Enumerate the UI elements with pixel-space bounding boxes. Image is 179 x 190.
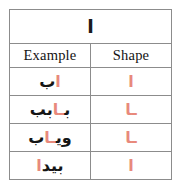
example-suffix: بب xyxy=(30,100,53,119)
example-highlight-letter: ـا xyxy=(44,128,55,147)
table-row: ويـاب ـا xyxy=(10,124,172,152)
shape-cell: ـا xyxy=(91,124,172,152)
shape-cell: ا xyxy=(91,68,172,96)
example-word: بيدا xyxy=(36,156,63,175)
example-cell: بـابب xyxy=(10,96,91,124)
example-word: بـابب xyxy=(30,100,70,119)
shape-glyph: ا xyxy=(128,72,133,91)
example-prefix: بيد xyxy=(42,156,64,175)
example-word: ويـاب xyxy=(28,128,72,147)
shape-cell: ا xyxy=(91,152,172,180)
example-suffix: ب xyxy=(39,72,55,91)
shape-glyph: ا xyxy=(128,156,133,175)
table-row: بـابب ـا xyxy=(10,96,172,124)
table-row: بيدا ا xyxy=(10,152,172,180)
shape-cell: ـا xyxy=(91,96,172,124)
arabic-letter-forms-table: ا Example Shape اب ا بـابب ـا xyxy=(9,9,172,180)
example-cell: ويـاب xyxy=(10,124,91,152)
example-suffix: ب xyxy=(28,128,44,147)
example-highlight-letter: ـا xyxy=(53,100,64,119)
table-header-row: Example Shape xyxy=(10,44,172,68)
example-prefix: وي xyxy=(56,128,72,147)
letter-title-cell: ا xyxy=(10,10,172,44)
column-header-shape: Shape xyxy=(91,44,172,68)
table-row: اب ا xyxy=(10,68,172,96)
shape-glyph: ـا xyxy=(125,100,136,119)
example-word: اب xyxy=(39,72,61,91)
example-highlight-letter: ا xyxy=(55,72,60,91)
figure-container: ا Example Shape اب ا بـابب ـا xyxy=(0,0,179,190)
example-prefix: ب xyxy=(64,100,70,119)
example-cell: بيدا xyxy=(10,152,91,180)
table-title-row: ا xyxy=(10,10,172,44)
shape-glyph: ـا xyxy=(125,128,136,147)
example-cell: اب xyxy=(10,68,91,96)
column-header-example: Example xyxy=(10,44,91,68)
